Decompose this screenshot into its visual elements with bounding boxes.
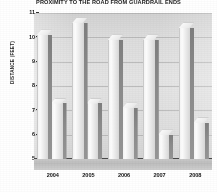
bar-front-face bbox=[158, 135, 170, 159]
bar-2007-series1 bbox=[143, 40, 154, 159]
y-tick-label-9: 9 bbox=[19, 59, 35, 64]
bar-2008-series2 bbox=[193, 123, 204, 160]
bar-2004-series2 bbox=[51, 103, 62, 159]
y-tick-label-6: 6 bbox=[19, 132, 35, 137]
bar-front-face bbox=[87, 103, 99, 159]
x-tick-label-2007: 2007 bbox=[145, 172, 175, 178]
bar-2006-series2 bbox=[122, 108, 133, 159]
bar-front-face bbox=[37, 35, 49, 159]
bar-front-face bbox=[193, 123, 205, 160]
bar-2004-series1 bbox=[37, 35, 48, 159]
bar-2006-series1 bbox=[108, 40, 119, 159]
x-axis-ticks: 20042005200620072008 bbox=[34, 172, 212, 182]
x-tick-label-2008: 2008 bbox=[180, 172, 210, 178]
y-tick-label-11: 11 bbox=[19, 10, 35, 15]
bar-2008-series1 bbox=[179, 28, 190, 159]
y-tick-mark bbox=[36, 12, 39, 13]
plot-area bbox=[34, 13, 212, 159]
bar-2007-series2 bbox=[158, 135, 169, 159]
bar-front-face bbox=[72, 23, 84, 159]
y-tick-label-10: 10 bbox=[19, 35, 35, 40]
y-tick-label-7: 7 bbox=[19, 108, 35, 113]
x-tick-label-2006: 2006 bbox=[109, 172, 139, 178]
bar-front-face bbox=[51, 103, 63, 159]
bar-front-face bbox=[179, 28, 191, 159]
chart-floor bbox=[34, 159, 212, 170]
y-tick-label-5: 5 bbox=[19, 156, 35, 161]
bar-front-face bbox=[108, 40, 120, 159]
chart-title: PROXIMITY TO THE ROAD FROM GUARDRAIL END… bbox=[0, 0, 217, 5]
y-tick-label-8: 8 bbox=[19, 83, 35, 88]
bar-front-face bbox=[143, 40, 155, 159]
x-tick-label-2005: 2005 bbox=[73, 172, 103, 178]
bar-2005-series2 bbox=[87, 103, 98, 159]
bar-2005-series1 bbox=[72, 23, 83, 159]
x-tick-label-2004: 2004 bbox=[38, 172, 68, 178]
bar-front-face bbox=[122, 108, 134, 159]
gridline-11 bbox=[34, 13, 212, 14]
y-axis-title: DISTANCE (FEET) bbox=[10, 27, 15, 99]
